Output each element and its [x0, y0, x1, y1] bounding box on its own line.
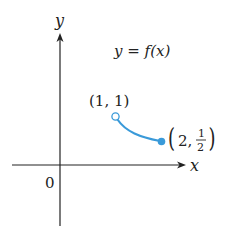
svg-text:): ) — [209, 124, 216, 153]
svg-text:1: 1 — [198, 127, 205, 140]
x-axis-label: x — [190, 156, 199, 175]
open-point-label: (1, 1) — [89, 92, 129, 110]
svg-text:2,: 2, — [178, 132, 192, 150]
graph: y x 0 y = f(x) (1, 1) ( 2, 1 2 ) — [0, 0, 227, 230]
filled-endpoint — [158, 138, 166, 146]
svg-text:2: 2 — [197, 141, 204, 154]
function-curve — [118, 120, 161, 142]
open-endpoint — [112, 113, 119, 120]
svg-text:(: ( — [168, 124, 175, 153]
closed-point-label: ( 2, 1 2 ) — [168, 124, 216, 154]
y-axis-label: y — [54, 11, 65, 30]
function-equation: y = f(x) — [113, 42, 170, 60]
origin-label: 0 — [45, 174, 55, 192]
